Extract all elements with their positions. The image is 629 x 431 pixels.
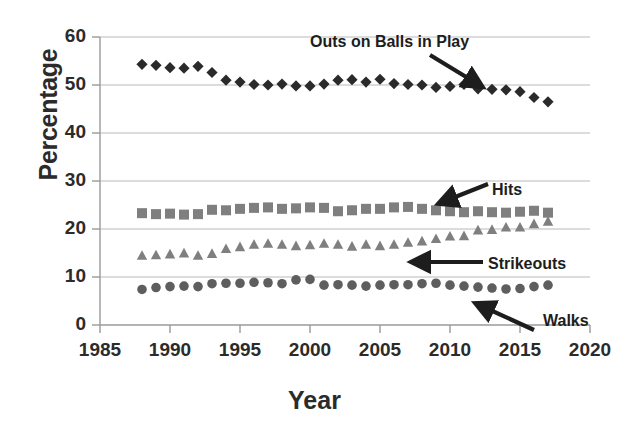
marker-circle-2008 bbox=[417, 279, 427, 289]
x-tick-label-1995: 1995 bbox=[205, 339, 275, 361]
marker-square-2011 bbox=[459, 207, 469, 217]
marker-diamond-2001 bbox=[318, 78, 329, 89]
marker-diamond-2003 bbox=[346, 74, 357, 85]
marker-circle-1993 bbox=[207, 279, 217, 289]
marker-diamond-1999 bbox=[290, 80, 301, 91]
marker-diamond-2011 bbox=[458, 79, 469, 90]
marker-triangle-1996 bbox=[249, 239, 259, 249]
marker-square-2010 bbox=[445, 206, 455, 216]
marker-square-1992 bbox=[193, 209, 203, 219]
x-tick-label-1990: 1990 bbox=[135, 339, 205, 361]
marker-diamond-1993 bbox=[206, 67, 217, 78]
marker-triangle-1988 bbox=[137, 250, 147, 260]
marker-circle-1991 bbox=[179, 281, 189, 291]
marker-triangle-2015 bbox=[515, 222, 525, 232]
marker-diamond-2000 bbox=[304, 80, 315, 91]
marker-diamond-2017 bbox=[542, 96, 553, 107]
marker-triangle-2009 bbox=[431, 233, 441, 243]
marker-diamond-1998 bbox=[276, 78, 287, 89]
marker-circle-2011 bbox=[459, 281, 469, 291]
y-tick-label-10: 10 bbox=[42, 265, 86, 287]
marker-circle-1992 bbox=[193, 282, 203, 292]
marker-triangle-1989 bbox=[151, 250, 161, 260]
marker-triangle-2007 bbox=[403, 237, 413, 247]
marker-square-2013 bbox=[487, 207, 497, 217]
marker-square-1988 bbox=[137, 208, 147, 218]
y-tick-label-20: 20 bbox=[42, 217, 86, 239]
marker-circle-2003 bbox=[347, 280, 357, 290]
marker-triangle-2010 bbox=[445, 231, 455, 241]
marker-square-1993 bbox=[207, 205, 217, 215]
y-tick-marks-group bbox=[92, 37, 100, 325]
marker-diamond-2015 bbox=[514, 86, 525, 97]
gridlines-group bbox=[100, 37, 590, 277]
series-outs-on-balls-in-play bbox=[136, 59, 553, 108]
y-tick-label-30: 30 bbox=[42, 169, 86, 191]
marker-diamond-2016 bbox=[528, 92, 539, 103]
marker-diamond-2006 bbox=[388, 78, 399, 89]
marker-square-2008 bbox=[417, 204, 427, 214]
marker-circle-2005 bbox=[375, 280, 385, 290]
marker-square-2016 bbox=[529, 206, 539, 216]
chart-plot-svg bbox=[0, 0, 629, 431]
marker-diamond-1988 bbox=[136, 59, 147, 70]
marker-square-2006 bbox=[389, 202, 399, 212]
marker-triangle-2008 bbox=[417, 236, 427, 246]
y-tick-label-50: 50 bbox=[42, 73, 86, 95]
y-tick-label-60: 60 bbox=[42, 25, 86, 47]
marker-triangle-2014 bbox=[501, 222, 511, 232]
marker-square-2009 bbox=[431, 205, 441, 215]
series-strikeouts bbox=[137, 216, 553, 260]
x-tick-marks-group bbox=[100, 325, 590, 333]
marker-triangle-1992 bbox=[193, 250, 203, 260]
marker-triangle-1999 bbox=[291, 241, 301, 251]
marker-diamond-2009 bbox=[430, 82, 441, 93]
marker-circle-2004 bbox=[361, 281, 371, 291]
marker-diamond-1992 bbox=[192, 61, 203, 72]
marker-diamond-1989 bbox=[150, 60, 161, 71]
marker-diamond-2010 bbox=[444, 81, 455, 92]
marker-triangle-2000 bbox=[305, 240, 315, 250]
marker-circle-2017 bbox=[543, 280, 553, 290]
marker-diamond-1996 bbox=[248, 79, 259, 90]
marker-diamond-2005 bbox=[374, 74, 385, 85]
marker-triangle-1995 bbox=[235, 242, 245, 252]
marker-diamond-1995 bbox=[234, 77, 245, 88]
marker-diamond-1997 bbox=[262, 79, 273, 90]
marker-square-1997 bbox=[263, 202, 273, 212]
marker-circle-2015 bbox=[515, 284, 525, 294]
marker-diamond-2002 bbox=[332, 75, 343, 86]
annotation-arrow-walks bbox=[477, 304, 534, 330]
annotation-arrow-outs bbox=[430, 55, 481, 86]
marker-circle-2002 bbox=[333, 280, 343, 290]
marker-circle-2000 bbox=[305, 275, 315, 285]
marker-circle-2010 bbox=[445, 280, 455, 290]
marker-square-2001 bbox=[319, 203, 329, 213]
x-tick-label-2000: 2000 bbox=[275, 339, 345, 361]
marker-square-2015 bbox=[515, 207, 525, 217]
marker-diamond-2004 bbox=[360, 77, 371, 88]
marker-circle-1994 bbox=[221, 278, 231, 288]
marker-triangle-2005 bbox=[375, 241, 385, 251]
marker-triangle-1993 bbox=[207, 248, 217, 258]
marker-square-2007 bbox=[403, 202, 413, 212]
marker-triangle-2004 bbox=[361, 239, 371, 249]
x-tick-label-2015: 2015 bbox=[485, 339, 555, 361]
x-axis-title: Year bbox=[0, 386, 629, 415]
marker-triangle-2016 bbox=[529, 219, 539, 229]
marker-circle-1998 bbox=[277, 279, 287, 289]
marker-circle-2012 bbox=[473, 282, 483, 292]
marker-square-2004 bbox=[361, 204, 371, 214]
marker-square-1996 bbox=[249, 203, 259, 213]
annotation-label-walks: Walks bbox=[543, 312, 589, 330]
marker-circle-1997 bbox=[263, 278, 273, 288]
marker-circle-2014 bbox=[501, 284, 511, 294]
marker-circle-1996 bbox=[249, 277, 259, 287]
marker-square-1991 bbox=[179, 210, 189, 220]
x-tick-label-2005: 2005 bbox=[345, 339, 415, 361]
x-tick-label-2010: 2010 bbox=[415, 339, 485, 361]
marker-square-1989 bbox=[151, 209, 161, 219]
marker-circle-1989 bbox=[151, 283, 161, 293]
marker-square-1995 bbox=[235, 204, 245, 214]
marker-square-1999 bbox=[291, 203, 301, 213]
